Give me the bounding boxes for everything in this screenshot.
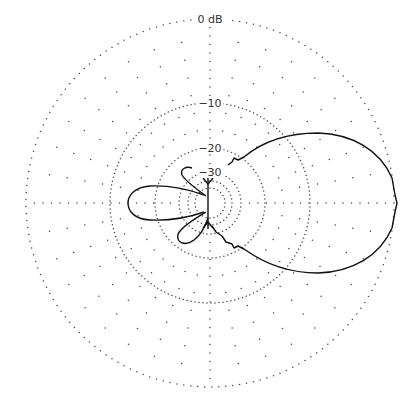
grid-dot: [368, 296, 370, 298]
grid-dot: [123, 151, 125, 153]
grid-dot: [100, 350, 102, 352]
grid-dot: [299, 186, 301, 188]
grid-dot: [247, 305, 249, 307]
grid-dot: [223, 219, 225, 221]
grid-dot: [222, 195, 224, 197]
grid-dot: [305, 175, 307, 177]
grid-dot: [291, 61, 293, 63]
grid-dot: [51, 202, 53, 204]
grid-dot: [231, 202, 233, 204]
grid-dot: [273, 125, 275, 127]
grid-dot: [186, 182, 188, 184]
grid-dot: [183, 185, 185, 187]
grid-dot: [296, 252, 298, 254]
grid-dot: [253, 236, 255, 238]
grid-dot: [255, 233, 257, 235]
grid-dot: [329, 159, 331, 161]
grid-dot: [49, 174, 51, 176]
grid-dot: [239, 21, 241, 23]
grid-dot: [112, 180, 114, 182]
grid-dot: [180, 192, 182, 194]
grid-dot: [272, 166, 274, 168]
grid-dot: [229, 226, 231, 228]
grid-dot: [160, 66, 162, 68]
grid-dot: [257, 229, 259, 231]
grid-dot: [209, 61, 211, 63]
grid-dot: [236, 217, 238, 219]
grid-dot: [209, 27, 211, 29]
grid-dot: [156, 378, 158, 380]
grid-dot: [140, 144, 142, 146]
grid-dot: [296, 153, 298, 155]
grid-dot: [84, 224, 86, 226]
grid-dot: [53, 106, 55, 108]
grid-dot: [146, 92, 148, 94]
grid-dot: [239, 384, 241, 386]
grid-dot: [364, 103, 366, 105]
grid-dot: [314, 77, 316, 79]
grid-dot: [300, 202, 302, 204]
grid-dot: [154, 119, 156, 121]
grid-dot: [60, 94, 62, 96]
grid-dot: [195, 255, 197, 257]
grid-dot: [352, 177, 354, 179]
grid-dot: [388, 244, 390, 246]
grid-dot: [263, 190, 265, 192]
grid-dot: [327, 61, 329, 63]
grid-dot: [136, 33, 138, 35]
grid-dot: [110, 188, 112, 190]
grid-dot: [223, 255, 225, 257]
grid-dot: [307, 121, 309, 123]
grid-dot: [347, 324, 349, 326]
grid-dot: [260, 289, 262, 291]
grid-dot: [184, 251, 186, 253]
grid-dot: [309, 190, 311, 192]
grid-dot: [196, 210, 198, 212]
grid-dot: [118, 161, 120, 163]
grid-dot: [115, 169, 117, 171]
grid-dot: [170, 202, 172, 204]
grid-dot: [303, 167, 305, 169]
grid-dot: [238, 249, 240, 251]
grid-dot: [111, 184, 113, 186]
grid-dot: [130, 368, 132, 370]
grid-dot: [226, 217, 228, 219]
grid-dot: [256, 290, 258, 292]
grid-dot: [253, 381, 255, 383]
grid-dot: [147, 281, 149, 283]
grid-dot: [390, 167, 392, 169]
grid-dot: [37, 267, 39, 269]
grid-dot: [190, 104, 192, 106]
grid-dot: [220, 183, 222, 185]
grid-dot: [154, 49, 156, 51]
grid-dot: [209, 163, 211, 165]
grid-dot: [49, 231, 51, 233]
grid-dot: [239, 194, 241, 196]
grid-dot: [224, 202, 226, 204]
grid-dot: [255, 172, 257, 174]
grid-dot: [292, 146, 294, 148]
grid-dot: [289, 143, 291, 145]
grid-dot: [204, 386, 206, 388]
grid-dot: [195, 198, 197, 200]
grid-dot: [169, 23, 171, 25]
grid-dot: [209, 284, 211, 286]
grid-dot: [146, 166, 148, 168]
grid-dot: [295, 171, 297, 173]
grid-dot: [162, 146, 164, 148]
grid-dot: [259, 379, 261, 381]
grid-dot: [231, 152, 233, 154]
grid-dot: [257, 175, 259, 177]
grid-dot: [105, 354, 107, 356]
grid-dot: [130, 264, 132, 266]
polar-grid: [25, 18, 395, 388]
grid-dot: [173, 265, 175, 267]
grid-dot: [225, 292, 227, 294]
grid-dot: [112, 121, 114, 123]
grid-dot: [279, 274, 281, 276]
grid-dot: [154, 355, 156, 357]
grid-dot: [279, 119, 281, 121]
grid-dot: [179, 196, 181, 198]
grid-dot: [117, 43, 119, 45]
grid-dot: [309, 214, 311, 216]
